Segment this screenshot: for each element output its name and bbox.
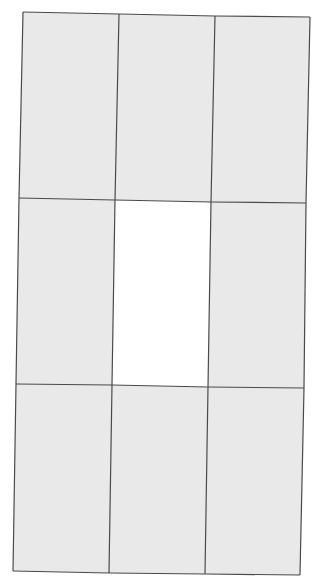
grid-cell-r0-c1 (115, 14, 215, 202)
grid-cell-r1-c1-empty (112, 200, 211, 387)
grid-canvas (0, 0, 322, 588)
grid-cell-r0-c0 (19, 12, 119, 200)
grid-cell-r2-c2 (205, 387, 304, 575)
grid-cell-r2-c1 (109, 385, 208, 574)
grid-cell-r0-c2 (211, 16, 310, 203)
three-by-three-grid (0, 0, 322, 588)
grid-cells (13, 12, 310, 575)
grid-cell-r1-c0 (16, 198, 115, 385)
grid-cell-r1-c2 (208, 202, 306, 388)
grid-cell-r2-c0 (13, 384, 112, 573)
